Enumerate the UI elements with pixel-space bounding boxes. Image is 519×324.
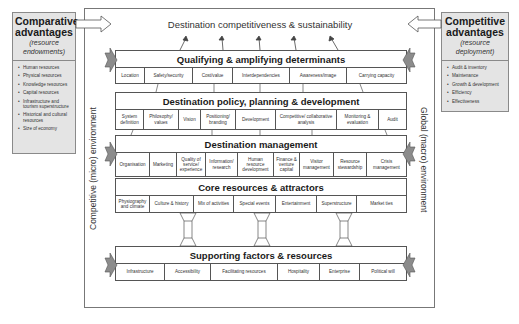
comparative-to-frame-arrow-icon	[76, 16, 111, 32]
band-connector-lines	[131, 84, 387, 135]
competitive-to-frame-arrow-icon	[408, 16, 441, 32]
right-side-arrows-icon	[403, 48, 415, 277]
connector-overlay	[0, 0, 519, 324]
left-side-arrows-icon	[105, 48, 117, 277]
pillar-connectors	[180, 213, 352, 246]
up-arrows-icon	[180, 36, 338, 50]
